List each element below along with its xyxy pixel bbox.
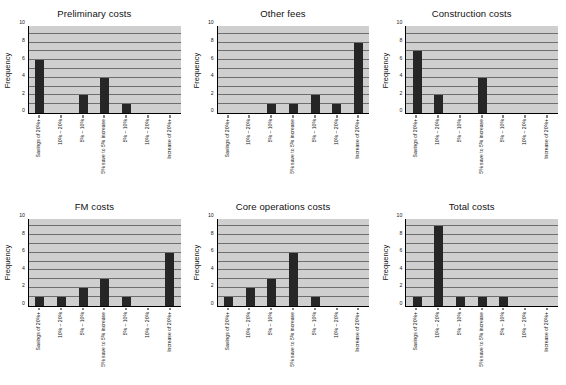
chart-title: FM costs xyxy=(0,201,189,212)
y-axis-ticks: 0246810 xyxy=(14,219,28,307)
bar-slot xyxy=(283,219,305,306)
bar-slot xyxy=(94,26,116,113)
x-axis-label-slot: 5% – 10% xyxy=(115,309,137,371)
x-axis-tick-mark xyxy=(147,308,148,311)
bar xyxy=(311,297,320,306)
bar-slot xyxy=(428,219,450,306)
x-axis-tick-label: 5% – 10% xyxy=(501,119,507,142)
x-axis-label-slot: 5% – 10% xyxy=(260,309,282,371)
bar xyxy=(311,95,320,113)
y-axis-tick-label: 4 xyxy=(22,74,25,79)
x-axis-tick-mark xyxy=(104,115,105,118)
chart-panel: Total costsFrequency0246810Savings of 20… xyxy=(377,193,566,385)
bar-slot xyxy=(428,26,450,113)
y-axis-tick-label: 6 xyxy=(211,56,214,61)
x-axis-tick-label: Savings of 20%+ xyxy=(36,119,42,157)
x-axis-label-slot: Savings of 20%+ xyxy=(405,116,427,178)
y-axis-label-text: Frequency xyxy=(192,245,201,280)
x-axis-labels: Savings of 20%+10% – 20%5% – 10%5% save … xyxy=(28,116,181,178)
x-axis-tick-mark xyxy=(126,115,127,118)
bar xyxy=(267,104,276,113)
y-axis-label: Frequency xyxy=(2,26,14,114)
x-axis-tick-mark xyxy=(525,308,526,311)
x-axis-tick-mark xyxy=(82,115,83,118)
x-axis-tick-label: 10% – 20% xyxy=(523,119,529,145)
x-axis-tick-mark xyxy=(438,308,439,311)
x-axis-tick-mark xyxy=(481,308,482,311)
y-axis-label-text: Frequency xyxy=(381,52,390,87)
x-axis-tick-label: Increase of 20%+ xyxy=(167,312,173,352)
x-axis-tick-mark xyxy=(60,308,61,311)
y-axis-tick-label: 4 xyxy=(22,266,25,271)
bar-slot xyxy=(283,26,305,113)
x-axis-tick-label: 5% save to 5% increase xyxy=(290,312,296,367)
x-axis-tick-mark xyxy=(459,308,460,311)
bar-slot xyxy=(515,219,537,306)
bar xyxy=(165,253,174,306)
x-axis-tick-mark xyxy=(126,308,127,311)
y-axis-tick-label: 2 xyxy=(399,284,402,289)
x-axis-tick-label: 5% – 10% xyxy=(123,312,129,335)
chart-panel: FM costsFrequency0246810Savings of 20%+1… xyxy=(0,193,189,385)
bar-slot xyxy=(450,219,472,306)
y-axis-tick-label: 0 xyxy=(399,301,402,306)
x-axis-label-slot: 10% – 20% xyxy=(514,309,536,371)
bar-series xyxy=(406,219,558,306)
y-axis-tick-label: 4 xyxy=(211,74,214,79)
y-axis-tick-label: 0 xyxy=(211,109,214,114)
x-axis-label-slot: 5% save to 5% increase xyxy=(282,309,304,371)
x-axis-label-slot: 5% save to 5% increase xyxy=(282,116,304,178)
y-axis-tick-label: 6 xyxy=(22,56,25,61)
x-axis-label-slot: 10% – 20% xyxy=(50,116,72,178)
chart-title: Construction costs xyxy=(377,8,566,19)
y-axis-label: Frequency xyxy=(379,219,391,307)
x-axis-label-slot: Savings of 20%+ xyxy=(28,116,50,178)
bar-slot xyxy=(536,26,558,113)
y-axis-tick-label: 2 xyxy=(22,284,25,289)
x-axis-tick-label: 5% save to 5% increase xyxy=(102,312,108,367)
x-axis-tick-mark xyxy=(336,308,337,311)
x-axis-tick-label: 10% – 20% xyxy=(247,312,253,338)
x-axis-label-slot: 10% – 20% xyxy=(326,116,348,178)
y-axis-ticks: 0246810 xyxy=(203,26,217,114)
plot-area xyxy=(217,219,370,307)
bar-slot xyxy=(261,26,283,113)
x-axis-tick-label: 5% – 10% xyxy=(312,119,318,142)
y-axis-tick-label: 8 xyxy=(22,231,25,236)
x-axis-label-slot: 10% – 20% xyxy=(137,309,159,371)
bar-slot xyxy=(218,219,240,306)
chart-panel: Preliminary costsFrequency0246810Savings… xyxy=(0,0,189,193)
x-axis-tick-label: Savings of 20%+ xyxy=(413,119,419,157)
y-axis-ticks: 0246810 xyxy=(14,26,28,114)
x-axis-tick-label: Savings of 20%+ xyxy=(225,312,231,350)
y-axis-label-text: Frequency xyxy=(4,52,13,87)
bar-slot xyxy=(326,219,348,306)
x-axis-tick-label: 5% save to 5% increase xyxy=(479,312,485,367)
x-axis-labels: Savings of 20%+10% – 20%5% – 10%5% save … xyxy=(28,309,181,371)
bar-slot xyxy=(51,26,73,113)
x-axis-labels: Savings of 20%+10% – 20%5% – 10%5% save … xyxy=(217,116,370,178)
bar xyxy=(79,288,88,306)
x-axis-label-slot: 10% – 20% xyxy=(326,309,348,371)
y-axis-tick-label: 2 xyxy=(211,284,214,289)
x-axis-tick-mark xyxy=(438,115,439,118)
x-axis-tick-mark xyxy=(416,115,417,118)
x-axis-tick-mark xyxy=(60,115,61,118)
bar-slot xyxy=(137,219,159,306)
x-axis-tick-label: 10% – 20% xyxy=(435,119,441,145)
y-axis-tick-label: 10 xyxy=(19,213,25,218)
y-axis-tick-label: 10 xyxy=(208,21,214,26)
x-axis-label-slot: 5% – 10% xyxy=(449,116,471,178)
x-axis-label-slot: Increase of 20%+ xyxy=(348,309,370,371)
bar xyxy=(35,60,44,113)
x-axis-label-slot: 5% save to 5% increase xyxy=(471,309,493,371)
x-axis-label-slot: 10% – 20% xyxy=(427,309,449,371)
y-axis-tick-label: 6 xyxy=(399,56,402,61)
x-axis-label-slot: 10% – 20% xyxy=(50,309,72,371)
y-axis-tick-label: 10 xyxy=(397,213,403,218)
y-axis-tick-label: 2 xyxy=(22,91,25,96)
x-axis-label-slot: 5% – 10% xyxy=(493,116,515,178)
x-axis-tick-label: 10% – 20% xyxy=(145,119,151,145)
x-axis-tick-label: 10% – 20% xyxy=(334,119,340,145)
x-axis-tick-label: 10% – 20% xyxy=(58,119,64,145)
